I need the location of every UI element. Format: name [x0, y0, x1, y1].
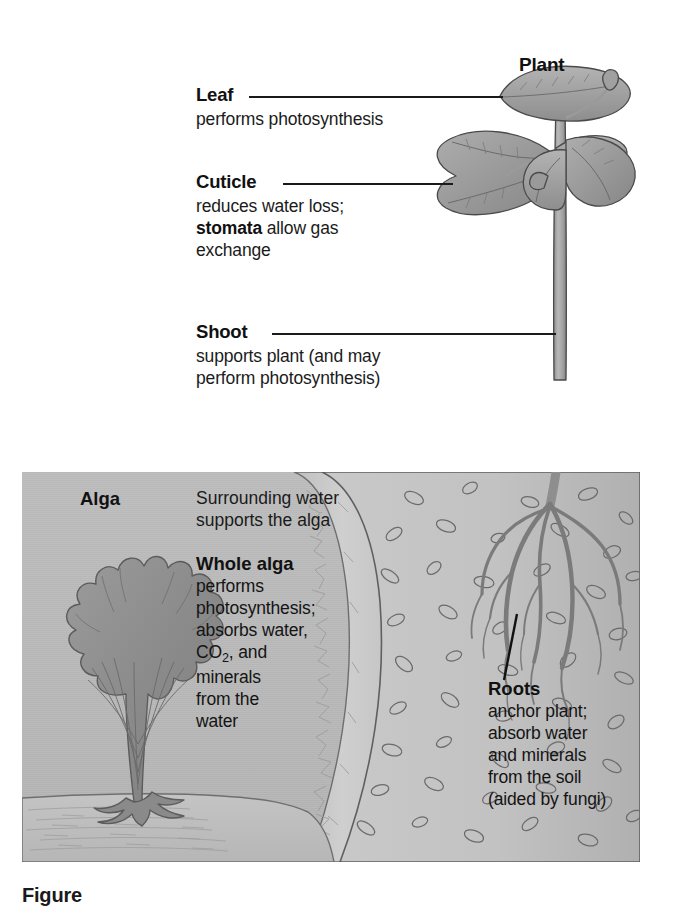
callout-leaf-body: performs photosynthesis: [196, 108, 383, 130]
callout-roots-heading: Roots: [488, 679, 640, 700]
callout-roots-body: anchor plant;absorb waterand mineralsfro…: [488, 700, 640, 810]
callout-shoot-heading: Shoot: [196, 322, 380, 343]
figure-caption-partial: Figure: [22, 884, 662, 918]
callout-whole-alga-heading: Whole alga: [196, 554, 336, 575]
habitat-panel: Alga Surrounding watersupports the alga …: [22, 472, 640, 862]
callout-whole-alga-body: performsphotosynthesis;absorbs water,CO2…: [196, 575, 336, 733]
plant-illustration: [0, 0, 692, 500]
callout-whole-alga: Whole alga performsphotosynthesis;absorb…: [196, 554, 336, 732]
callout-cuticle-body: reduces water loss;stomata allow gasexch…: [196, 195, 344, 261]
callout-leaf: Leaf performs photosynthesis: [196, 85, 383, 130]
plant-vs-alga-diagram: Plant Leaf performs photosynthesis Cutic…: [0, 0, 692, 918]
callout-cuticle-heading: Cuticle: [196, 172, 344, 193]
callout-roots: Roots anchor plant;absorb waterand miner…: [488, 679, 640, 810]
water-support-note: Surrounding watersupports the alga: [196, 487, 386, 531]
alga-title: Alga: [80, 489, 120, 510]
callout-shoot: Shoot supports plant (and mayperform pho…: [196, 322, 380, 389]
callout-cuticle: Cuticle reduces water loss;stomata allow…: [196, 172, 344, 261]
plant-title: Plant: [519, 54, 564, 76]
callout-leaf-heading: Leaf: [196, 85, 383, 106]
callout-shoot-body: supports plant (and mayperform photosynt…: [196, 345, 380, 389]
